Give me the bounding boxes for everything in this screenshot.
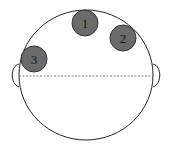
marker-1-label: 1 [82, 16, 89, 31]
right-ear [153, 64, 160, 87]
marker-3: 3 [21, 46, 47, 72]
marker-2: 2 [110, 25, 136, 51]
marker-2-label: 2 [120, 31, 127, 46]
marker-1: 1 [72, 10, 98, 36]
head-diagram: 1 2 3 [0, 0, 171, 149]
left-ear [12, 64, 19, 87]
marker-3-label: 3 [31, 52, 38, 67]
